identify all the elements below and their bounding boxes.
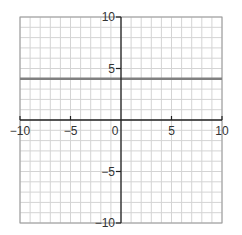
x-tick-label: 0 [112,124,119,138]
x-tick-label: −10 [10,124,31,138]
y-tick-label: 10 [102,10,116,24]
x-tick-label: 10 [215,124,229,138]
y-tick-label: −5 [101,165,115,179]
y-tick-label: −10 [95,216,116,230]
y-tick-label: 5 [108,62,115,76]
coordinate-plane: −10−50510−10−5510 [0,0,242,235]
x-tick-label: −5 [64,124,78,138]
x-tick-label: 5 [168,124,175,138]
